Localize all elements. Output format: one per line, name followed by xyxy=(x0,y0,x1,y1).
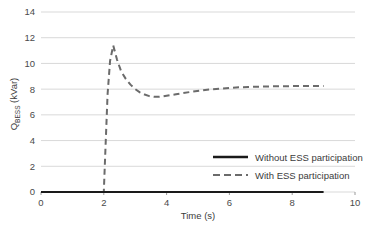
y-axis-tick-labels: 02468101214 xyxy=(24,6,35,197)
svg-text:QBESS (kVar): QBESS (kVar) xyxy=(8,78,21,131)
x-tick-label: 4 xyxy=(164,197,169,208)
x-tick-label: 8 xyxy=(290,197,295,208)
y-tick-label: 2 xyxy=(30,161,35,172)
y-axis-title-main: Q xyxy=(8,123,19,130)
y-tick-label: 10 xyxy=(24,58,35,69)
x-tick-label: 0 xyxy=(38,197,43,208)
y-tick-label: 14 xyxy=(24,6,35,17)
x-tick-label: 10 xyxy=(350,197,361,208)
x-axis-tick-labels: 0246810 xyxy=(38,197,360,208)
legend-label-with-ess: With ESS participation xyxy=(255,170,350,181)
gridlines xyxy=(41,12,355,192)
y-axis-title: QBESS (kVar) xyxy=(8,78,21,131)
x-axis-title: Time (s) xyxy=(181,210,215,221)
x-tick-label: 2 xyxy=(101,197,106,208)
y-tick-label: 6 xyxy=(30,109,35,120)
y-tick-label: 0 xyxy=(30,186,35,197)
y-axis-title-subscript: BESS xyxy=(14,105,21,123)
y-tick-label: 12 xyxy=(24,32,35,43)
line-chart: 02468101214 0246810 QBESS (kVar) Time (s… xyxy=(0,0,385,236)
y-tick-label: 8 xyxy=(30,84,35,95)
legend-label-without-ess: Without ESS participation xyxy=(255,152,363,163)
y-tick-label: 4 xyxy=(30,135,35,146)
chart-container: 02468101214 0246810 QBESS (kVar) Time (s… xyxy=(0,0,385,236)
y-axis-title-unit: (kVar) xyxy=(8,78,19,106)
x-tick-label: 6 xyxy=(227,197,232,208)
